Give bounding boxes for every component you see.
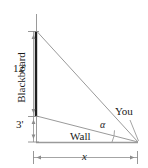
- sightline-upper: [37, 31, 139, 142]
- label-height-lower: 3': [16, 119, 23, 130]
- label-wall: Wall: [70, 131, 91, 142]
- geometry-figure: 12' 3' Blackboard Wall You α x: [0, 0, 148, 168]
- dimension-arrow-middle-down: [32, 120, 36, 125]
- label-base-x: x: [82, 151, 87, 162]
- label-blackboard: Blackboard: [16, 36, 27, 120]
- label-you: You: [115, 106, 133, 117]
- dimension-arrow-right: [130, 156, 135, 160]
- dimension-arrow-left: [37, 156, 42, 160]
- dimension-arrow-bottom-up: [32, 135, 36, 140]
- label-angle-alpha: α: [100, 120, 105, 130]
